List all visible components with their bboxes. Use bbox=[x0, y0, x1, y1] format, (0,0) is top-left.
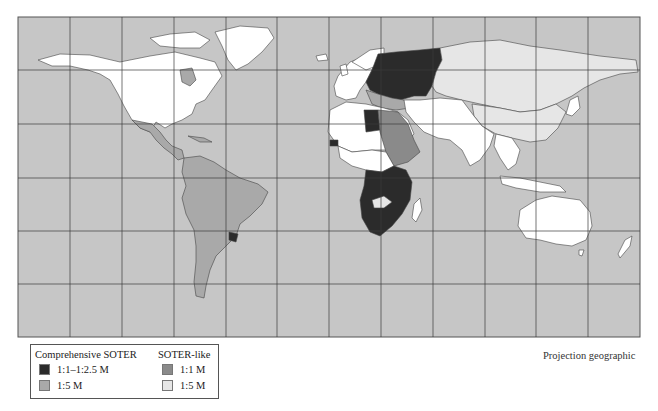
legend-item: 1:5 M bbox=[158, 378, 211, 393]
legend-soter-like: SOTER-like 1:1 M 1:5 M bbox=[158, 348, 211, 393]
legend-item: 1:1 M bbox=[158, 362, 211, 377]
libya bbox=[364, 110, 380, 132]
swatch-medium-icon bbox=[162, 364, 173, 375]
legend-title-soter-like: SOTER-like bbox=[158, 348, 211, 361]
legend-label: 1:1–1:2.5 M bbox=[57, 364, 109, 375]
legend-label: 1:5 M bbox=[57, 380, 82, 391]
legend-comprehensive: Comprehensive SOTER 1:1–1:2.5 M 1:5 M bbox=[35, 348, 137, 393]
swatch-dark-icon bbox=[39, 364, 50, 375]
legend-item: 1:1–1:2.5 M bbox=[35, 362, 137, 377]
swatch-light-icon bbox=[162, 380, 173, 391]
senegal bbox=[330, 140, 338, 146]
uruguay bbox=[229, 232, 238, 242]
world-map bbox=[0, 0, 658, 345]
legend-label: 1:1 M bbox=[180, 364, 205, 375]
projection-label: Projection geographic bbox=[543, 350, 635, 361]
legend-item: 1:5 M bbox=[35, 378, 137, 393]
legend-label: 1:5 M bbox=[180, 380, 205, 391]
swatch-grey-icon bbox=[39, 380, 50, 391]
legend: Comprehensive SOTER 1:1–1:2.5 M 1:5 M SO… bbox=[30, 344, 219, 399]
legend-title-comprehensive: Comprehensive SOTER bbox=[35, 348, 137, 361]
